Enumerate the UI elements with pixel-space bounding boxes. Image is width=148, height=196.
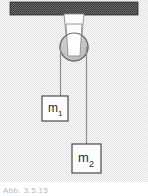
mass-block-1: m 1 <box>42 96 68 121</box>
ceiling-bar <box>10 2 138 15</box>
mass-2-subscript: 2 <box>89 159 94 169</box>
mass-1-symbol: m <box>48 101 58 115</box>
physics-figure-atwood-machine: m 1 m 2 <box>0 0 148 196</box>
figure-canvas: m 1 m 2 <box>0 0 148 196</box>
mass-2-symbol: m <box>78 150 89 165</box>
mass-1-subscript: 1 <box>58 109 63 118</box>
mass-block-2: m 2 <box>72 144 101 173</box>
figure-caption: Abb. 3.5.15 <box>3 186 123 196</box>
